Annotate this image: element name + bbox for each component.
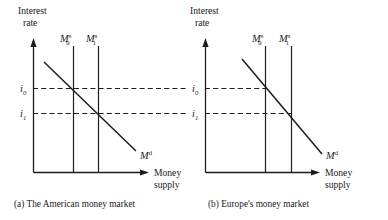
panel-b-y-axis-arrow-icon — [202, 38, 208, 47]
panel-a-y-axis-label-line1: Interest — [18, 5, 47, 16]
panel-a-y-axis-arrow-icon — [30, 38, 36, 47]
panel-b-demand-curve — [242, 59, 322, 154]
panel-a-supply-label-m0: Ms0 — [59, 32, 72, 46]
panel-a-x-axis-label-line2: supply — [154, 179, 180, 190]
panel-a-rate-label-i0: i0 — [20, 83, 27, 96]
panel-a-rate-label-i1: i1 — [20, 108, 26, 121]
panel-b-x-axis-label-line2: supply — [325, 179, 351, 190]
panel-b-rate-label-i1: i1 — [192, 108, 198, 121]
panel-a-caption: (a) The American money market — [14, 199, 136, 210]
panel-a-demand-label: Md — [139, 149, 153, 161]
panel-b-x-axis-arrow-icon — [311, 169, 320, 175]
panel-b-y-axis-label-line2: rate — [195, 17, 209, 28]
panel-b-rate-label-i0: i0 — [192, 83, 199, 96]
panel-b-y-axis-label-line1: Interest — [190, 5, 219, 16]
figure-canvas: Interest rate Ms0 Ms1 i0 i1 Md — [0, 0, 388, 220]
panel-a-x-axis-label-line1: Money — [154, 167, 181, 178]
panel-a-x-axis-arrow-icon — [140, 169, 149, 175]
panel-b-x-axis-label-line1: Money — [325, 167, 352, 178]
panel-b: Interest rate Ms0 Ms1 i0 i1 Md — [190, 5, 352, 210]
panel-a-y-axis-label-line2: rate — [23, 17, 37, 28]
panel-b-supply-label-m1: Ms1 — [278, 32, 291, 46]
panel-b-supply-label-m0: Ms0 — [251, 32, 264, 46]
panel-b-caption: (b) Europe's money market — [208, 199, 309, 210]
panel-a-supply-label-m1: Ms1 — [85, 32, 98, 46]
panel-a-demand-curve — [44, 62, 136, 151]
panel-a: Interest rate Ms0 Ms1 i0 i1 Md — [14, 5, 186, 210]
money-market-figure: Interest rate Ms0 Ms1 i0 i1 Md — [0, 0, 388, 220]
panel-b-demand-label: Md — [325, 149, 339, 161]
